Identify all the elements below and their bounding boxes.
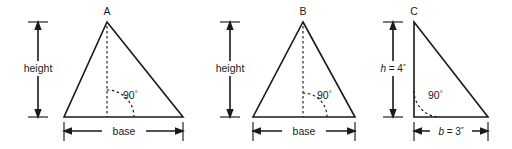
triangle-c-base-unit: ″: [461, 125, 464, 134]
triangle-c-group: h = 4″ 90° C b = 3″: [370, 5, 490, 141]
triangle-c-height-label: h = 4″: [380, 62, 406, 74]
triangle-b-vertex-label: B: [299, 5, 306, 17]
triangle-b-angle-value: 90: [317, 89, 329, 101]
triangle-c-base-label: b = 3″: [438, 125, 464, 137]
triangle-a-angle-value: 90: [123, 89, 135, 101]
triangle-b-base-label: base: [293, 125, 316, 137]
triangle-b-base-dimension: base: [251, 122, 357, 141]
triangle-b-outline: [253, 22, 355, 117]
triangle-a-vertex-label: A: [103, 5, 110, 17]
triangle-a-base-label: base: [113, 125, 136, 137]
triangle-a-angle-label: 90°: [123, 89, 138, 102]
triangle-a-angle-unit: °: [135, 89, 138, 98]
triangle-b-height-label: height: [216, 62, 245, 74]
triangle-c-outline: [414, 22, 488, 117]
triangle-c-base-dimension: b = 3″: [412, 122, 490, 141]
triangle-c-angle-unit: °: [440, 89, 443, 98]
triangle-b-height-dimension: height: [204, 20, 256, 119]
triangle-b-angle-unit: °: [329, 89, 332, 98]
triangle-b-angle-label: 90°: [317, 89, 332, 102]
triangle-c-height-eq: = 4: [386, 63, 403, 74]
triangle-c-angle-label: 90°: [428, 89, 443, 102]
triangle-c-height-dimension: h = 4″: [370, 20, 416, 119]
triangle-a-group: height 90° A base: [12, 5, 185, 141]
triangle-c-base-eq: = 3: [444, 126, 461, 137]
triangle-a-outline: [64, 22, 183, 117]
figure-canvas: height 90° A base: [0, 0, 512, 149]
triangle-a-height-label: height: [24, 62, 53, 74]
triangle-c-vertex-label: C: [410, 5, 418, 17]
triangle-a-base-dimension: base: [62, 122, 185, 141]
triangle-c-angle-value: 90: [428, 89, 440, 101]
triangle-figure: height 90° A base: [0, 0, 512, 149]
triangle-b-group: height 90° B base: [204, 5, 357, 141]
triangle-c-height-unit: ″: [403, 62, 406, 71]
triangle-a-height-dimension: height: [12, 20, 64, 119]
